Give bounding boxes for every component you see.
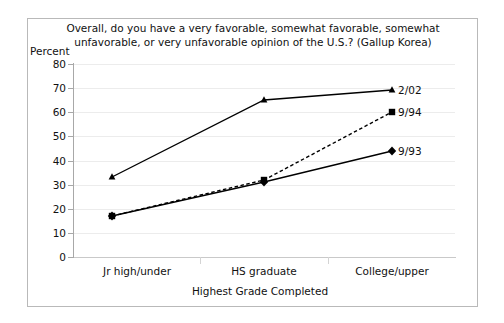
marker-2-02-college-upper [389,86,396,92]
series-label-9-93: 9/93 [398,145,422,157]
series-container [0,0,504,323]
marker-9-93-college-upper [388,147,396,156]
series-line-9-93 [112,151,392,216]
series-label-2-02: 2/02 [398,84,422,96]
series-line-9-94 [112,112,392,216]
marker-9-94-college-upper [389,109,395,115]
series-label-9-94: 9/94 [398,106,422,118]
series-line-2-02 [112,90,392,177]
